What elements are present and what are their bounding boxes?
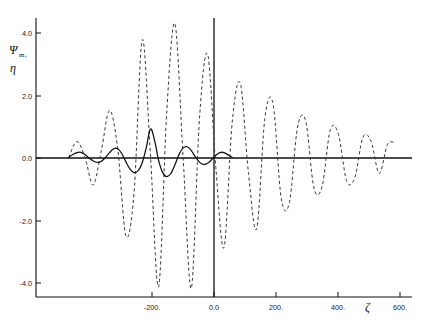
x-tick-label-0: 0.0 — [209, 303, 219, 312]
y-axis-title-eta: η — [10, 61, 16, 75]
series-psi-solid — [69, 129, 232, 177]
y-tick-label-neg2: -2.0 — [20, 217, 32, 226]
x-tick-label-400: 400. — [331, 303, 345, 312]
y-axis-title: Ψ m , η — [9, 43, 27, 75]
plot-canvas: 4.0 2.0 0.0 -2.0 -4.0 -200. 0.0 200. 400… — [0, 0, 424, 324]
y-axis-title-comma: , — [25, 51, 27, 59]
y-axis-title-psi: Ψ — [9, 43, 19, 57]
y-tick-label-neg4: -4.0 — [20, 279, 32, 288]
y-tick-label-2: 2.0 — [22, 92, 32, 101]
x-axis-title-zeta: ζ — [365, 300, 371, 314]
y-tick-labels: 4.0 2.0 0.0 -2.0 -4.0 — [20, 29, 32, 288]
figure-container: 4.0 2.0 0.0 -2.0 -4.0 -200. 0.0 200. 400… — [0, 0, 424, 324]
x-tick-marks — [152, 292, 400, 297]
y-tick-label-4: 4.0 — [22, 29, 32, 38]
x-tick-label-600: 600. — [393, 303, 407, 312]
x-tick-label-200: 200. — [269, 303, 283, 312]
series-eta-dashed — [69, 23, 396, 289]
x-tick-label-neg200: -200. — [144, 303, 160, 312]
y-tick-label-0: 0.0 — [22, 154, 32, 163]
